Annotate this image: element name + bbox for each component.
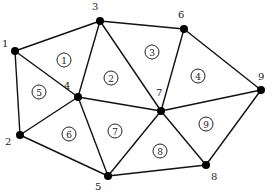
edge-8-5 (108, 165, 206, 176)
node-dot (96, 17, 104, 25)
element-label: 6 (66, 130, 72, 140)
node-dot (11, 47, 19, 55)
node-dot (74, 93, 82, 101)
node-9: 9 (257, 71, 265, 94)
node-label: 3 (92, 1, 98, 12)
node-dot (257, 86, 265, 94)
edge-7-8 (161, 111, 206, 165)
node-dot (180, 25, 188, 33)
node-label: 9 (258, 71, 264, 82)
element-4: 4 (191, 69, 205, 83)
element-label: 8 (157, 147, 163, 157)
element-2: 2 (104, 71, 118, 85)
element-6: 6 (62, 127, 76, 141)
element-3: 3 (145, 45, 159, 59)
element-label: 4 (195, 72, 201, 82)
element-5: 5 (32, 85, 46, 99)
mesh-edges (15, 21, 261, 176)
node-dot (157, 107, 165, 115)
node-dot (16, 131, 24, 139)
edge-4-7 (78, 97, 161, 111)
node-1: 1 (2, 38, 19, 55)
element-label: 7 (112, 127, 118, 137)
node-6: 6 (178, 9, 188, 33)
edge-1-3 (15, 21, 100, 51)
node-dot (104, 172, 112, 180)
node-label: 7 (156, 87, 162, 98)
node-5: 5 (95, 172, 112, 192)
node-label: 2 (5, 136, 11, 147)
node-3: 3 (92, 1, 104, 25)
element-label: 1 (61, 56, 67, 66)
element-label: 9 (203, 120, 209, 130)
edge-6-7 (161, 29, 184, 111)
element-label: 5 (36, 88, 42, 98)
edge-3-6 (100, 21, 184, 29)
edge-3-7 (100, 21, 161, 111)
node-label: 4 (64, 80, 70, 91)
edge-2-1 (15, 51, 20, 135)
node-8: 8 (202, 161, 217, 182)
node-label: 6 (178, 9, 184, 20)
element-label: 2 (108, 74, 114, 84)
node-label: 5 (95, 181, 101, 192)
edge-7-9 (161, 90, 261, 111)
element-label: 3 (149, 48, 155, 58)
element-7: 7 (108, 124, 122, 138)
element-1: 1 (57, 53, 71, 67)
node-dot (202, 161, 210, 169)
edge-3-4 (78, 21, 100, 97)
node-label: 8 (211, 171, 217, 182)
node-2: 2 (5, 131, 24, 147)
edge-9-8 (206, 90, 261, 165)
element-8: 8 (153, 144, 167, 158)
triangular-mesh-diagram: 123456789 123456789 (0, 0, 272, 196)
edge-5-7 (108, 111, 161, 176)
node-label: 1 (2, 38, 8, 49)
element-9: 9 (199, 117, 213, 131)
